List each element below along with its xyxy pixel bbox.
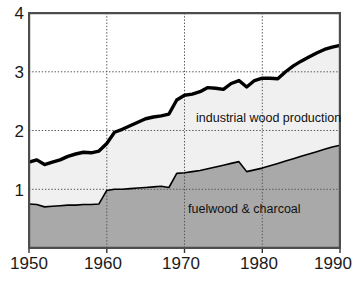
y-tick-label-1: 1: [4, 182, 24, 199]
series-label-industrial-wood-production: industrial wood production: [196, 111, 341, 125]
y-tick-label-3: 3: [4, 64, 24, 81]
x-tick-label-1980: 1980: [232, 255, 286, 272]
stacked-area-chart: [0, 0, 362, 281]
y-tick-label-4: 4: [4, 5, 24, 22]
x-axis-ticks: [29, 249, 340, 253]
x-tick-label-1970: 1970: [154, 255, 208, 272]
x-tick-label-1950: 1950: [2, 255, 56, 272]
y-tick-label-2: 2: [4, 123, 24, 140]
x-tick-label-1990: 1990: [306, 255, 360, 272]
series-label-fuelwood-charcoal: fuelwood & charcoal: [188, 202, 301, 216]
chart-figure: 4 3 2 1 1950 1960 1970 1980 1990 industr…: [0, 0, 362, 281]
x-tick-label-1960: 1960: [76, 255, 130, 272]
